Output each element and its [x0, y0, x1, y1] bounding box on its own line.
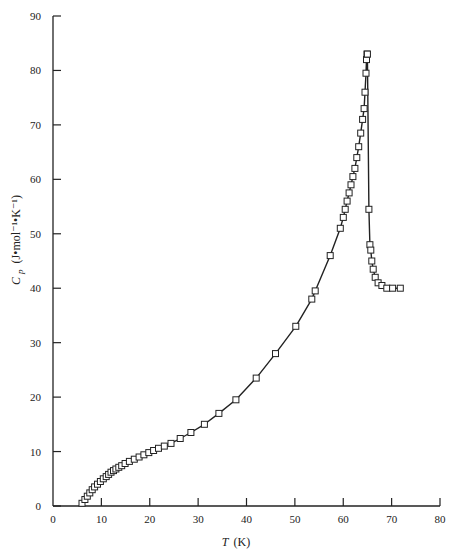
x-tick-label: 60 — [338, 513, 350, 525]
data-point-square — [201, 421, 207, 427]
x-axis-label: T (K) — [222, 535, 250, 549]
y-tick-label: 30 — [30, 337, 42, 349]
chart-canvas: 010203040506070809001020304050607080 T (… — [0, 0, 459, 556]
x-axis-unit: (K) — [234, 535, 251, 549]
data-point-square — [362, 89, 368, 95]
data-point-square — [348, 182, 354, 188]
y-tick-label: 0 — [36, 500, 42, 512]
data-point-square — [390, 285, 396, 291]
data-point-square — [352, 165, 358, 171]
data-point-square — [360, 116, 366, 122]
y-tick-label: 50 — [30, 228, 42, 240]
data-point-square — [216, 410, 222, 416]
y-tick-label: 10 — [30, 446, 42, 458]
data-point-square — [233, 397, 239, 403]
data-point-square — [344, 198, 350, 204]
y-axis-label: C p (J•mol⁻¹•K⁻¹) — [9, 195, 26, 285]
data-point-square — [188, 430, 194, 436]
x-tick-label: 40 — [241, 513, 253, 525]
cp-curve — [82, 54, 400, 503]
x-tick-label: 30 — [193, 513, 205, 525]
data-point-square — [161, 443, 167, 449]
y-tick-label: 90 — [30, 10, 42, 22]
y-tick-label: 70 — [30, 119, 42, 131]
y-tick-label: 80 — [30, 64, 42, 76]
data-point-square — [370, 266, 376, 272]
data-point-square — [273, 351, 279, 357]
data-point-square — [368, 247, 374, 253]
x-tick-label: 70 — [386, 513, 398, 525]
data-point-square — [364, 51, 370, 57]
data-point-square — [356, 144, 362, 150]
data-point-square — [346, 190, 352, 196]
data-point-square — [293, 323, 299, 329]
x-tick-label: 20 — [144, 513, 156, 525]
data-point-square — [384, 285, 390, 291]
y-axis-symbol: C — [9, 276, 23, 285]
data-point-square — [253, 375, 259, 381]
data-point-square — [363, 70, 369, 76]
x-tick-label: 10 — [96, 513, 108, 525]
fitted-curve — [82, 54, 400, 503]
data-point-square — [369, 258, 375, 264]
data-point-square — [361, 106, 367, 112]
data-point-square — [312, 288, 318, 294]
data-point-square — [156, 445, 162, 451]
data-point-square — [358, 130, 364, 136]
data-point-square — [350, 174, 356, 180]
x-axis-symbol: T — [222, 535, 230, 549]
data-point-square — [342, 206, 348, 212]
axes: 010203040506070809001020304050607080 — [30, 10, 446, 525]
data-point-square — [309, 296, 315, 302]
axis-labels: T (K) C p (J•mol⁻¹•K⁻¹) — [9, 195, 250, 549]
data-points — [79, 51, 403, 506]
data-point-square — [337, 225, 343, 231]
x-tick-label: 80 — [435, 513, 447, 525]
x-tick-label: 0 — [50, 513, 56, 525]
y-tick-label: 60 — [30, 173, 42, 185]
data-point-square — [327, 253, 333, 259]
heat-capacity-chart: 010203040506070809001020304050607080 T (… — [0, 0, 459, 556]
data-point-square — [354, 155, 360, 161]
y-axis-subscript: p — [15, 269, 25, 275]
data-point-square — [340, 214, 346, 220]
data-point-square — [397, 285, 403, 291]
x-tick-label: 50 — [289, 513, 301, 525]
y-axis-unit: (J•mol⁻¹•K⁻¹) — [9, 195, 23, 263]
y-tick-label: 20 — [30, 391, 42, 403]
data-point-square — [177, 436, 183, 442]
y-tick-label: 40 — [30, 282, 42, 294]
data-point-square — [168, 440, 174, 446]
data-point-square — [366, 206, 372, 212]
